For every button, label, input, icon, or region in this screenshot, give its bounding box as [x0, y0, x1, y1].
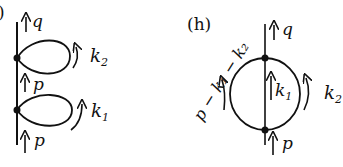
momentum-p-bottom: p [282, 133, 293, 153]
momentum-p-bottom: p [34, 130, 45, 150]
loop-lower [17, 95, 72, 126]
diagram-h-label: (h) [187, 14, 211, 34]
loop-upper [17, 41, 70, 74]
diagram-h: (h) q k1 k2 p − k₁ − k₂ p [187, 14, 342, 155]
momentum-q: q [32, 11, 43, 31]
momentum-p-mid: p [33, 74, 44, 94]
momentum-k1: k1 [91, 100, 109, 124]
curved-arrow-icon [304, 78, 309, 110]
momentum-q: q [282, 19, 293, 39]
vertex [14, 55, 21, 62]
momentum-k2: k2 [90, 45, 108, 69]
momentum-p-minus-k1-k2: p − k₁ − k₂ [189, 38, 253, 124]
feynman-diagrams: ) q k2 p k1 p (h) q k [0, 0, 343, 167]
diagram-g: ) q k2 p k1 p [0, 2, 109, 153]
vertex-bottom [262, 127, 269, 134]
momentum-k2: k2 [324, 82, 342, 106]
diagram-g-label: ) [0, 2, 5, 22]
curved-arrow-icon [73, 47, 77, 68]
vertex [14, 107, 21, 114]
momentum-k1: k1 [275, 80, 292, 103]
vertex-top [262, 55, 269, 62]
